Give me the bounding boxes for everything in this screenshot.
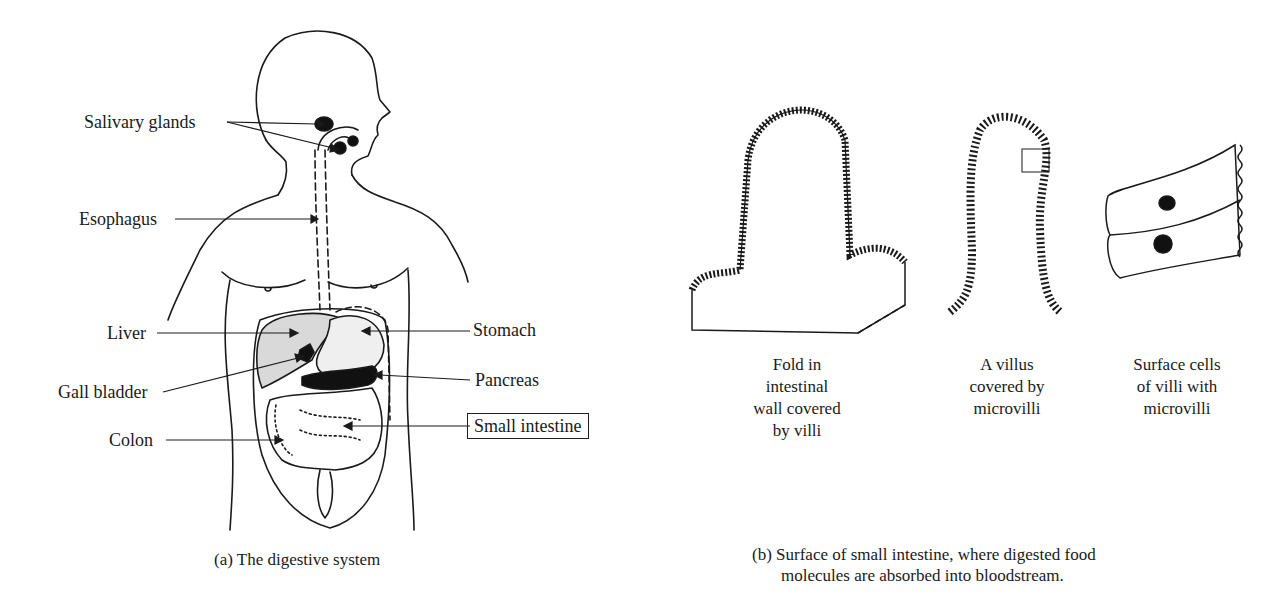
subcaption-line: Fold in [732, 354, 862, 376]
label-stomach: Stomach [473, 320, 536, 340]
label-pancreas: Pancreas [475, 370, 539, 390]
subcaption-line: by villi [732, 420, 862, 442]
subcaption-line: intestinal [732, 376, 862, 398]
diagram-artwork [0, 0, 1272, 593]
subcaption-line: of villi with [1112, 376, 1242, 398]
label-esophagus: Esophagus [79, 209, 157, 229]
subcaption-line: microvilli [947, 398, 1067, 420]
esophagus-tube-icon [315, 150, 330, 310]
subcaption-line: covered by [947, 376, 1067, 398]
subcaption-surface-cells: Surface cells of villi with microvilli [1112, 354, 1242, 420]
caption-panel-b-line2: molecules are absorbed into bloodstream. [781, 566, 1064, 586]
caption-panel-b-line1: (b) Surface of small intestine, where di… [752, 545, 1096, 565]
leader-lines [157, 120, 470, 444]
subcaption-line: Surface cells [1112, 354, 1242, 376]
subcaption-villus: A villus covered by microvilli [947, 354, 1067, 420]
subcaption-line: wall covered [732, 398, 862, 420]
label-colon: Colon [109, 430, 153, 450]
villus-icon [950, 117, 1060, 312]
human-body-outline-icon [168, 31, 468, 530]
label-salivary-glands: Salivary glands [84, 112, 195, 132]
subcaption-line: microvilli [1112, 398, 1242, 420]
label-liver: Liver [107, 323, 146, 343]
caption-panel-a: (a) The digestive system [214, 550, 380, 570]
label-gall-bladder: Gall bladder [58, 382, 147, 402]
intestinal-fold-icon [692, 262, 905, 333]
surface-cells-icon [1106, 145, 1240, 278]
label-small-intestine: Small intestine [467, 413, 589, 439]
colon-shape-icon [266, 388, 382, 470]
subcaption-line: A villus [947, 354, 1067, 376]
subcaption-fold: Fold in intestinal wall covered by villi [732, 354, 862, 442]
